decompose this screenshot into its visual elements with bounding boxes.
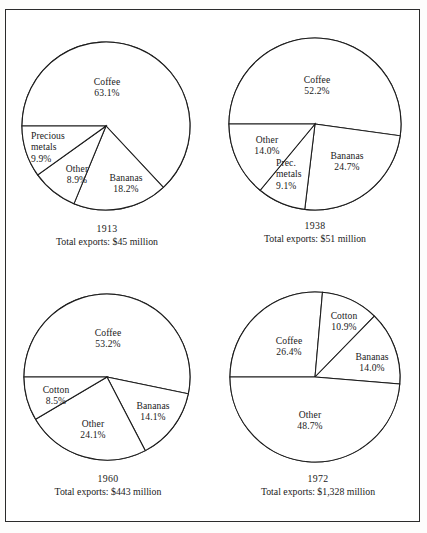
slice-label-coffee-1913: Coffee 63.1% xyxy=(78,76,136,99)
slice-label-coffee-1938: Coffee 52.2% xyxy=(288,74,346,97)
figure-page: Coffee 63.1% Precious metals 9.9% Other … xyxy=(0,0,427,533)
caption-1972: 1972 Total exports: $1,328 million xyxy=(229,472,407,498)
caption-1913: 1913 Total exports: $45 million xyxy=(26,222,188,248)
slice-label-bananas-1972: Bananas 14.0% xyxy=(345,351,399,374)
slice-label-prec-metals-1938: Prec. metals 9.1% xyxy=(276,157,302,191)
slice-label-precious-metals-1913: Precious metals 9.9% xyxy=(31,130,65,164)
slice-label-coffee-1960: Coffee 53.2% xyxy=(79,327,137,350)
slice-label-cotton-1960: Cotton 8.5% xyxy=(33,384,79,407)
slice-label-bananas-1960: Bananas 14.1% xyxy=(127,400,179,423)
slice-label-other-1972: Other 48.7% xyxy=(287,409,333,432)
slice-label-bananas-1913: Bananas 18.2% xyxy=(100,172,152,195)
caption-1938: 1938 Total exports: $51 million xyxy=(232,219,398,245)
figure-border xyxy=(5,9,420,522)
slice-label-cotton-1972: Cotton 10.9% xyxy=(320,310,368,333)
slice-label-bananas-1938: Bananas 24.7% xyxy=(320,150,374,173)
slice-label-other-1938: Other 14.0% xyxy=(244,134,290,157)
slice-label-other-1913: Other 8.9% xyxy=(56,163,98,186)
slice-label-other-1960: Other 24.1% xyxy=(70,418,116,441)
slice-label-coffee-1972: Coffee 26.4% xyxy=(263,335,315,358)
caption-1960: 1960 Total exports: $443 million xyxy=(22,472,194,498)
